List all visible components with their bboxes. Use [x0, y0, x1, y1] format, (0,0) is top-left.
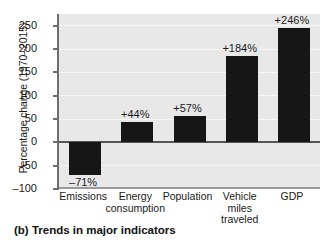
y-axis-tick-label: 50 — [0, 113, 47, 124]
bar-value-label: +184% — [200, 43, 280, 54]
figure-trends-in-major-indicators: Percentage change (1970–2015) –100–50050… — [0, 0, 326, 245]
bar[interactable] — [69, 142, 101, 175]
figure-caption: (b) Trends in major indicators — [14, 224, 176, 236]
y-axis-tick-label: 0 — [0, 136, 47, 147]
y-axis-tick — [53, 118, 59, 120]
bar-value-label: +57% — [148, 103, 228, 114]
bar[interactable] — [226, 56, 258, 142]
y-axis-tick-label: –100 — [0, 183, 47, 194]
y-axis-tick — [53, 141, 59, 143]
y-axis-tick-label: –50 — [0, 160, 47, 171]
bar-value-label: –71% — [43, 177, 123, 188]
bar[interactable] — [174, 116, 206, 143]
y-axis-tick-label: 100 — [0, 90, 47, 101]
bar-value-label: +246% — [252, 15, 326, 26]
y-axis-tick — [53, 71, 59, 73]
y-axis-tick-label: 150 — [0, 66, 47, 77]
bar[interactable] — [121, 122, 153, 143]
y-axis-tick — [53, 25, 59, 27]
y-axis-tick — [53, 165, 59, 167]
y-axis-tick — [53, 48, 59, 50]
y-axis-tick-label: 250 — [0, 20, 47, 31]
x-axis-category-label: GDP — [255, 191, 326, 203]
bar[interactable] — [278, 28, 310, 143]
y-axis-tick — [53, 95, 59, 97]
y-axis-tick-label: 200 — [0, 43, 47, 54]
